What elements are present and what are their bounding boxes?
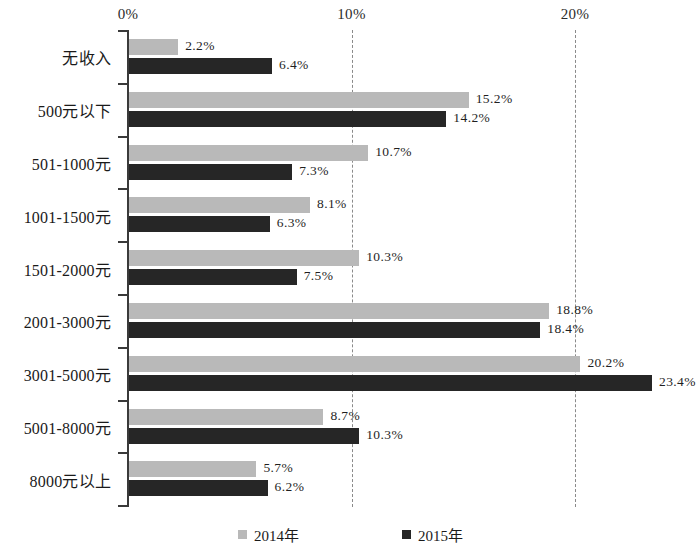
y-axis-tick [118,505,128,507]
y-axis-tick [118,83,128,85]
bar-2015 [129,375,652,391]
bar-2015 [129,164,292,180]
bar-2014 [129,409,323,425]
category-label: 1001-1500元 [24,204,111,228]
y-axis-tick [118,188,128,190]
y-axis-tick [118,400,128,402]
bar-value-label: 15.2% [476,91,513,107]
bar-value-label: 20.2% [587,355,624,371]
bar-value-label: 10.7% [375,144,412,160]
bar-value-label: 18.8% [556,302,593,318]
x-tick-label: 10% [337,6,365,23]
bar-2014 [129,250,359,266]
x-tick-label: 0% [118,6,139,23]
category-label: 500元以下 [38,98,111,122]
bar-2015 [129,269,297,285]
bar-value-label: 6.4% [279,57,309,73]
legend-swatch-2014-icon [238,530,247,539]
bar-2015 [129,216,270,232]
y-axis-tick [118,241,128,243]
category-label: 无收入 [62,45,111,69]
x-tick-label: 20% [561,6,589,23]
y-axis-tick [118,136,128,138]
bar-value-label: 7.5% [304,268,334,284]
bar-value-label: 8.7% [330,408,360,424]
y-axis-tick [118,294,128,296]
bar-value-label: 23.4% [659,374,696,390]
bar-value-label: 6.2% [275,479,305,495]
income-distribution-bar-chart: 0%10%20% 无收入500元以下501-1000元1001-1500元150… [0,0,699,548]
category-label: 1501-2000元 [24,257,111,281]
legend-item-2015[interactable]: 2015年 [402,524,463,545]
bar-2014 [129,39,178,55]
y-axis-tick [118,30,128,32]
category-label: 5001-8000元 [24,415,111,439]
bar-value-label: 14.2% [453,110,490,126]
legend-label-2015: 2015年 [418,524,463,545]
plot-area: 0%10%20% 无收入500元以下501-1000元1001-1500元150… [0,0,699,548]
category-label: 3001-5000元 [24,362,111,386]
bar-value-label: 10.3% [366,249,403,265]
bar-2014 [129,197,310,213]
bar-2014 [129,145,368,161]
gridline [575,30,576,507]
category-label: 501-1000元 [32,151,111,175]
bar-2015 [129,480,268,496]
bar-2014 [129,356,580,372]
bar-value-label: 7.3% [299,163,329,179]
bar-2014 [129,303,549,319]
bar-value-label: 2.2% [185,38,215,54]
bar-2015 [129,428,359,444]
bar-value-label: 8.1% [317,196,347,212]
bar-2014 [129,92,469,108]
bar-value-label: 18.4% [547,321,584,337]
bar-2015 [129,58,272,74]
bar-value-label: 10.3% [366,427,403,443]
bar-2015 [129,111,446,127]
bar-value-label: 6.3% [277,215,307,231]
category-label: 8000元以上 [30,468,111,492]
bar-value-label: 5.7% [263,460,293,476]
y-axis-tick [118,347,128,349]
legend-swatch-2015-icon [402,530,411,539]
category-label: 2001-3000元 [24,309,111,333]
bar-2015 [129,322,540,338]
chart-legend: 2014年 2015年 [0,524,699,548]
bar-2014 [129,461,256,477]
y-axis-tick [118,452,128,454]
legend-label-2014: 2014年 [254,524,299,545]
legend-item-2014[interactable]: 2014年 [238,524,299,545]
